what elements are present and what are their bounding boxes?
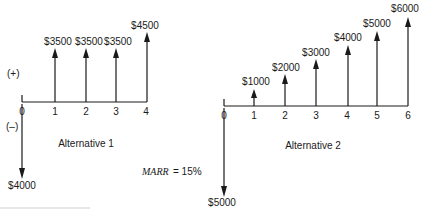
up-arrow-icon [251,89,257,98]
alt2-cashflow-2-label: $2000 [272,62,300,73]
up-arrow-icon [83,48,89,58]
alt1-cashflow-1-label: $3500 [44,36,72,47]
down-arrow-icon [221,186,227,197]
alt1-period-1: 1 [52,106,58,117]
alt2-cashflow-1-label: $1000 [242,76,270,87]
alt2-period-3: 3 [313,110,319,121]
cash-flow-diagrams: (+) (–) 0 1 2 3 4 $4000 $3500 $3500 $350… [0,0,421,210]
alt1-period-2: 2 [83,106,89,117]
alt1-cashflow-2-label: $3500 [75,36,103,47]
alt2-cashflow-6-label: $6000 [391,3,419,14]
alt2-period-6: 6 [405,110,411,121]
alt2-cashflow-5-label: $5000 [363,18,391,29]
alt2-period-5: 5 [374,110,380,121]
up-arrow-icon [313,59,319,69]
up-arrow-icon [144,32,150,42]
up-arrow-icon [345,45,351,55]
alt1-period-4: 4 [143,106,149,117]
alternative-1-diagram: (+) (–) 0 1 2 3 4 $4000 $3500 $3500 $350… [6,20,159,191]
positive-sign-label: (+) [7,68,20,79]
up-arrow-icon [405,17,411,27]
marr-name: MARR [141,166,169,177]
alt2-cashflow-3-label: $3000 [302,47,330,58]
alt1-cashflow-0-label: $4000 [8,180,36,191]
up-arrow-icon [113,48,119,58]
negative-sign-label: (–) [6,121,18,132]
marr-value: = 15% [173,166,202,177]
alt2-period-2: 2 [282,110,288,121]
alt1-caption: Alternative 1 [58,138,114,149]
up-arrow-icon [374,31,380,41]
alt2-period-4: 4 [344,110,350,121]
marr-label: MARR = 15% [141,166,202,177]
up-arrow-icon [52,48,58,58]
alt2-cashflow-4-label: $4000 [334,32,362,43]
alt1-period-3: 3 [113,106,119,117]
alt2-cashflow-0-label: $5000 [208,197,236,208]
alt1-cashflow-3-label: $3500 [104,36,132,47]
alternative-2-diagram: 0 1 2 3 4 5 6 $5000 $1000 $2000 $3000 $4… [208,3,419,208]
down-arrow-icon [19,168,25,179]
alt2-caption: Alternative 2 [285,140,341,151]
up-arrow-icon [282,74,288,84]
alt1-cashflow-4-label: $4500 [131,20,159,31]
alt2-period-1: 1 [251,110,257,121]
